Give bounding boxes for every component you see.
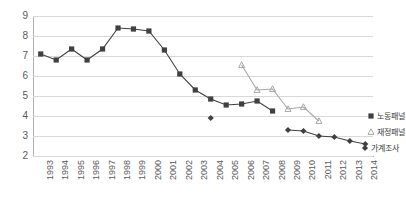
- line-chart: 23456789 1993199419951996199719981999200…: [0, 0, 406, 201]
- legend-label-0: 노동패널: [377, 112, 405, 121]
- series-0: [38, 25, 275, 113]
- series-2: [208, 115, 369, 147]
- legend-label-2: 가계조사: [371, 144, 399, 153]
- legend-label-1: 재정패널: [377, 128, 405, 137]
- data-series-layer: [0, 0, 406, 201]
- series-1: [239, 62, 322, 124]
